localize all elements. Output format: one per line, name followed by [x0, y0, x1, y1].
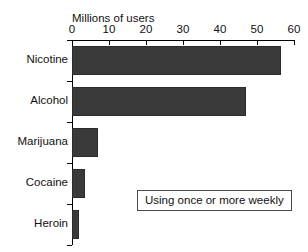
y-axis-tick [67, 245, 72, 246]
bar-row [72, 128, 294, 158]
category-label-alcohol: Alcohol [0, 94, 68, 106]
x-axis-tick-label: 20 [140, 23, 153, 35]
x-axis-tick [294, 40, 295, 45]
category-label-nicotine: Nicotine [0, 53, 68, 65]
clipped-title-sliver [0, 0, 308, 3]
x-axis-tick [220, 40, 221, 45]
bar-chart: Millions of users 0102030405060NicotineA… [0, 0, 308, 252]
category-label-marijuana: Marijuana [0, 135, 68, 147]
y-axis-tick [67, 122, 72, 123]
bar-row [72, 210, 294, 240]
y-axis-tick [67, 163, 72, 164]
x-axis-tick-label: 30 [177, 23, 190, 35]
category-label-heroin: Heroin [0, 217, 68, 229]
x-axis-tick [257, 40, 258, 45]
x-axis-tick [72, 40, 73, 45]
x-axis-tick-label: 10 [103, 23, 116, 35]
y-axis-tick [67, 40, 72, 41]
bar-row [72, 46, 294, 76]
y-axis-tick [67, 204, 72, 205]
x-axis-tick [109, 40, 110, 45]
y-axis-tick [67, 81, 72, 82]
category-label-cocaine: Cocaine [0, 176, 68, 188]
bar-row [72, 87, 294, 117]
bar-heroin [72, 210, 79, 240]
x-axis-tick-label: 60 [288, 23, 301, 35]
x-axis-tick-label: 50 [251, 23, 264, 35]
x-axis-tick-label: 0 [69, 23, 75, 35]
plot-area: 0102030405060NicotineAlcoholMarijuanaCoc… [72, 40, 294, 245]
annotation-box: Using once or more weekly [137, 190, 292, 211]
bar-cocaine [72, 169, 85, 199]
x-axis-tick [146, 40, 147, 45]
x-axis-tick [183, 40, 184, 45]
bar-alcohol [72, 87, 246, 117]
x-axis-tick-label: 40 [214, 23, 227, 35]
bar-nicotine [72, 46, 281, 76]
bar-marijuana [72, 128, 98, 158]
